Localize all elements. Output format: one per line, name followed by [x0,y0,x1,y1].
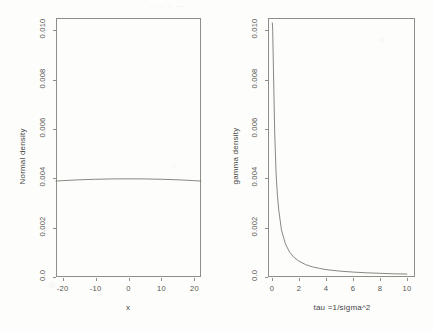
x-tick-mark [63,278,64,281]
y-tick-label: 0.0 [38,259,47,293]
x-tick-mark [326,278,327,281]
density-line [272,23,407,274]
y-tick-label: 0.010 [250,12,259,46]
gamma-density-panel: 0.00.0020.0040.0060.0080.010 0246810 gam… [217,0,434,332]
y-tick-mark [53,277,56,278]
x-tick-label: 4 [311,284,341,293]
normal-density-panel: 0.00.0020.0040.0060.0080.010 -20-1001020… [0,0,217,332]
y-tick-label: 0.006 [250,111,259,145]
figure-canvas: ... .. .. .... 0.00.0020.0040.0060.0080.… [0,0,434,332]
normal-y-axis-title: Normal density [18,105,27,185]
density-line [56,179,201,181]
y-tick-mark [265,277,268,278]
x-tick-label: 0 [257,284,287,293]
y-tick-label: 0.008 [38,61,47,95]
y-tick-mark [53,80,56,81]
x-tick-mark [353,278,354,281]
y-tick-mark [265,129,268,130]
y-tick-label: 0.008 [250,61,259,95]
y-tick-label: 0.006 [38,111,47,145]
y-tick-mark [265,30,268,31]
x-tick-mark [299,278,300,281]
x-tick-mark [407,278,408,281]
y-tick-label: 0.002 [38,209,47,243]
y-tick-mark [53,178,56,179]
x-tick-label: 2 [284,284,314,293]
gamma-x-axis-title: tau =1/sigma^2 [289,303,395,312]
x-tick-label: 8 [365,284,395,293]
x-tick-mark [272,278,273,281]
x-tick-label: 10 [392,284,422,293]
y-tick-mark [53,228,56,229]
x-tick-mark [129,278,130,281]
y-tick-mark [53,30,56,31]
x-tick-mark [194,278,195,281]
x-tick-mark [96,278,97,281]
y-tick-label: 0.002 [250,209,259,243]
y-tick-mark [265,178,268,179]
y-tick-label: 0.004 [38,160,47,194]
normal-density-curve [0,0,217,332]
y-tick-mark [265,80,268,81]
y-tick-label: 0.004 [250,160,259,194]
x-tick-label: -20 [48,284,78,293]
normal-x-axis-title: x [96,303,160,312]
x-tick-label: 20 [179,284,209,293]
x-tick-label: -10 [81,284,111,293]
y-tick-mark [53,129,56,130]
x-tick-label: 0 [114,284,144,293]
y-tick-mark [265,228,268,229]
x-tick-mark [380,278,381,281]
x-tick-mark [161,278,162,281]
x-tick-label: 6 [338,284,368,293]
gamma-y-axis-title: gamma density [231,105,240,185]
x-tick-label: 10 [146,284,176,293]
y-tick-label: 0.010 [38,12,47,46]
